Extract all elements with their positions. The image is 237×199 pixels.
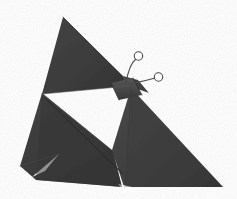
- lower-antenna-tip-icon: [154, 73, 162, 81]
- image-canvas: Dark charcoal origami butterfly with two…: [0, 0, 237, 199]
- upper-antenna-tip-icon: [134, 52, 142, 60]
- origami-butterfly-figure: [0, 0, 237, 199]
